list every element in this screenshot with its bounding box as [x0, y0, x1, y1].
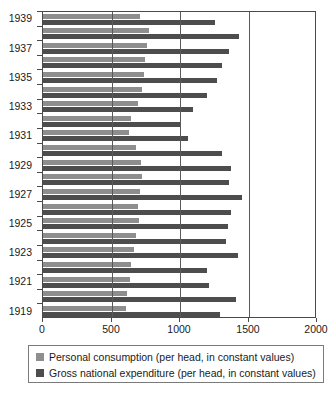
bar-personal-consumption-1923	[43, 247, 134, 252]
bar-gross-national-expenditure-1936	[43, 63, 222, 68]
bar-personal-consumption-1937	[43, 43, 147, 48]
bar-gross-national-expenditure-1922	[43, 268, 207, 273]
bar-group-1921	[43, 275, 315, 290]
bar-group-1924	[43, 231, 315, 246]
bar-group-1939	[43, 12, 315, 27]
bar-personal-consumption-1920	[43, 291, 127, 296]
bar-personal-consumption-1938	[43, 28, 149, 33]
plot-wrapper: 1939193719351933193119291927192519231921…	[0, 0, 335, 340]
bar-group-1923	[43, 246, 315, 261]
bar-group-1931	[43, 129, 315, 144]
bar-group-1927	[43, 187, 315, 202]
bar-personal-consumption-1922	[43, 262, 131, 267]
legend-label-gross-national-expenditure: Gross national expenditure (per head, in…	[49, 367, 316, 379]
bar-personal-consumption-1929	[43, 160, 141, 165]
legend-item: Gross national expenditure (per head, in…	[33, 365, 319, 380]
legend-item: Personal consumption (per head, in const…	[33, 349, 319, 364]
x-axis-label-0: 0	[39, 323, 45, 335]
x-tick-500	[111, 318, 112, 322]
chart-legend: Personal consumption (per head, in const…	[28, 345, 324, 383]
bar-group-1930	[43, 144, 315, 159]
bar-personal-consumption-1933	[43, 101, 138, 106]
bar-personal-consumption-1931	[43, 130, 129, 135]
bar-group-1938	[43, 27, 315, 42]
y-axis-label-1921: 1921	[9, 276, 32, 286]
bar-chart: 1939193719351933193119291927192519231921…	[0, 0, 335, 394]
bar-gross-national-expenditure-1933	[43, 107, 193, 112]
bar-group-1936	[43, 56, 315, 71]
x-axis-label-2000: 2000	[304, 323, 327, 335]
y-axis-label-1935: 1935	[9, 72, 32, 82]
legend-label-personal-consumption: Personal consumption (per head, in const…	[49, 351, 294, 363]
bar-personal-consumption-1934	[43, 87, 142, 92]
bar-group-1937	[43, 41, 315, 56]
bar-group-1926	[43, 202, 315, 217]
bar-gross-national-expenditure-1924	[43, 239, 226, 244]
bar-gross-national-expenditure-1923	[43, 253, 238, 258]
y-axis-label-1925: 1925	[9, 218, 32, 228]
bar-personal-consumption-1939	[43, 14, 140, 19]
bar-personal-consumption-1935	[43, 72, 144, 77]
bar-personal-consumption-1936	[43, 57, 145, 62]
y-axis-label-1933: 1933	[9, 101, 32, 111]
bar-gross-national-expenditure-1935	[43, 78, 217, 83]
bar-gross-national-expenditure-1930	[43, 151, 222, 156]
bar-gross-national-expenditure-1921	[43, 283, 209, 288]
plot-area	[42, 11, 316, 318]
gridline-1500	[249, 12, 250, 317]
bar-rows	[43, 12, 315, 317]
bar-personal-consumption-1932	[43, 116, 131, 121]
bar-group-1929	[43, 158, 315, 173]
bar-gross-national-expenditure-1929	[43, 166, 231, 171]
x-axis-label-1500: 1500	[236, 323, 259, 335]
bar-group-1925	[43, 217, 315, 232]
x-tick-1500	[248, 318, 249, 322]
bar-group-1935	[43, 70, 315, 85]
bar-group-1934	[43, 85, 315, 100]
bar-gross-national-expenditure-1937	[43, 49, 229, 54]
bar-group-1919	[43, 304, 315, 318]
x-axis: 0500100015002000	[42, 318, 316, 340]
legend-swatch-personal-consumption	[36, 353, 44, 361]
x-tick-0	[42, 318, 43, 322]
y-axis-label-1919: 1919	[9, 306, 32, 316]
bar-personal-consumption-1925	[43, 218, 139, 223]
y-axis: 1939193719351933193119291927192519231921…	[0, 11, 38, 318]
bar-gross-national-expenditure-1939	[43, 20, 215, 25]
y-axis-label-1937: 1937	[9, 43, 32, 53]
bar-personal-consumption-1928	[43, 174, 142, 179]
y-axis-label-1929: 1929	[9, 160, 32, 170]
bar-personal-consumption-1924	[43, 233, 136, 238]
gridline-500	[112, 12, 113, 317]
bar-group-1920	[43, 290, 315, 305]
y-axis-label-1927: 1927	[9, 189, 32, 199]
bar-personal-consumption-1919	[43, 306, 126, 311]
bar-gross-national-expenditure-1926	[43, 210, 231, 215]
y-axis-label-1923: 1923	[9, 247, 32, 257]
x-axis-label-500: 500	[102, 323, 120, 335]
bar-personal-consumption-1930	[43, 145, 136, 150]
bar-gross-national-expenditure-1920	[43, 297, 236, 302]
bar-group-1922	[43, 261, 315, 276]
bar-personal-consumption-1927	[43, 189, 140, 194]
bar-gross-national-expenditure-1938	[43, 34, 239, 39]
bar-group-1933	[43, 100, 315, 115]
x-tick-1000	[179, 318, 180, 322]
x-axis-label-1000: 1000	[167, 323, 190, 335]
bar-group-1928	[43, 173, 315, 188]
legend-swatch-gross-national-expenditure	[36, 369, 44, 377]
bar-gross-national-expenditure-1928	[43, 180, 229, 185]
bar-gross-national-expenditure-1931	[43, 136, 188, 141]
bar-personal-consumption-1926	[43, 204, 138, 209]
y-axis-label-1939: 1939	[9, 13, 32, 23]
bar-personal-consumption-1921	[43, 277, 130, 282]
x-tick-2000	[316, 318, 317, 322]
gridline-1000	[180, 12, 181, 317]
y-axis-label-1931: 1931	[9, 130, 32, 140]
bar-group-1932	[43, 114, 315, 129]
bar-gross-national-expenditure-1934	[43, 93, 207, 98]
bar-gross-national-expenditure-1925	[43, 224, 228, 229]
bar-gross-national-expenditure-1927	[43, 195, 242, 200]
bar-gross-national-expenditure-1919	[43, 312, 220, 317]
